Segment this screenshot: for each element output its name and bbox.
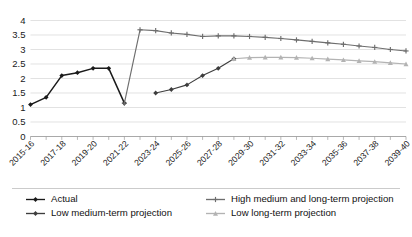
series-line — [124, 30, 406, 103]
data-point-marker — [213, 197, 218, 202]
x-axis-tick-label: 2027-28 — [195, 138, 225, 168]
x-axis-tick-label: 2035-36 — [320, 138, 350, 168]
data-point-marker — [91, 66, 96, 71]
x-axis-tick-label: 2015-16 — [7, 138, 37, 168]
data-point-marker — [278, 36, 283, 41]
data-point-marker — [106, 66, 111, 71]
legend-label: High medium and long-term projection — [231, 193, 394, 204]
data-point-marker — [388, 47, 393, 52]
series-line — [234, 57, 406, 64]
y-axis-tick-label: 2.5 — [12, 58, 25, 69]
y-axis-tick-label: 3 — [20, 44, 25, 55]
y-axis-tick-label: 4 — [20, 15, 25, 26]
x-axis-tick-label: 2031-32 — [257, 138, 287, 168]
y-axis-tick-label: 0.5 — [12, 116, 25, 127]
y-axis-tick-labels: 00.511.522.533.54 — [12, 15, 25, 142]
data-point-marker — [137, 27, 142, 32]
data-point-marker — [153, 28, 158, 33]
line-chart: 00.511.522.533.54 2015-162017-182019-202… — [0, 0, 412, 237]
data-point-marker — [153, 91, 158, 96]
data-point-marker — [356, 43, 361, 48]
x-axis-tick-label: 2039-40 — [383, 138, 412, 168]
x-axis-tick-label: 2037-38 — [351, 138, 381, 168]
data-point-marker — [185, 82, 190, 87]
x-axis-tick-label: 2025-26 — [163, 138, 193, 168]
y-axis-tick-label: 3.5 — [12, 29, 25, 40]
data-point-marker — [122, 101, 127, 106]
data-point-marker — [310, 39, 315, 44]
legend-item[interactable]: Actual — [26, 193, 78, 204]
series-markers — [28, 27, 409, 107]
x-axis-tick-label: 2017-18 — [38, 138, 68, 168]
data-point-marker — [263, 35, 268, 40]
legend-label: Actual — [51, 193, 78, 204]
data-point-marker — [33, 211, 38, 216]
data-point-marker — [184, 32, 189, 37]
data-point-marker — [200, 73, 205, 78]
data-point-marker — [28, 102, 33, 107]
legend: ActualHigh medium and long-term projecti… — [12, 189, 400, 219]
legend-item[interactable]: Low long-term projection — [206, 207, 336, 218]
chart-container: 00.511.522.533.54 2015-162017-182019-202… — [0, 0, 412, 237]
data-point-marker — [231, 33, 236, 38]
y-axis-tick-label: 0 — [20, 131, 25, 142]
x-axis-tick-label: 2019-20 — [70, 138, 100, 168]
x-axis-tick-labels: 2015-162017-182019-202021-222023-242025-… — [7, 138, 412, 168]
data-point-marker — [325, 40, 330, 45]
data-point-marker — [294, 37, 299, 42]
data-point-marker — [200, 34, 205, 39]
data-point-marker — [403, 48, 408, 53]
data-point-marker — [75, 70, 80, 75]
x-axis-tick-label: 2029-30 — [226, 138, 256, 168]
y-axis-tick-label: 1.5 — [12, 87, 25, 98]
x-axis-tick-label: 2023-24 — [132, 138, 162, 168]
y-axis-tick-label: 2 — [20, 73, 25, 84]
data-point-marker — [247, 34, 252, 39]
data-point-marker — [33, 197, 38, 202]
legend-label: Low medium-term projection — [51, 207, 172, 218]
data-point-marker — [341, 42, 346, 47]
legend-item[interactable]: Low medium-term projection — [26, 207, 172, 218]
legend-label: Low long-term projection — [231, 207, 336, 218]
data-point-marker — [216, 33, 221, 38]
x-axis-tick-label: 2021-22 — [101, 138, 131, 168]
x-axis-tickmarks — [31, 137, 407, 140]
legend-item[interactable]: High medium and long-term projection — [206, 193, 394, 204]
x-axis-tick-label: 2033-34 — [289, 138, 319, 168]
y-axis-tick-label: 1 — [20, 102, 25, 113]
data-point-marker — [169, 87, 174, 92]
